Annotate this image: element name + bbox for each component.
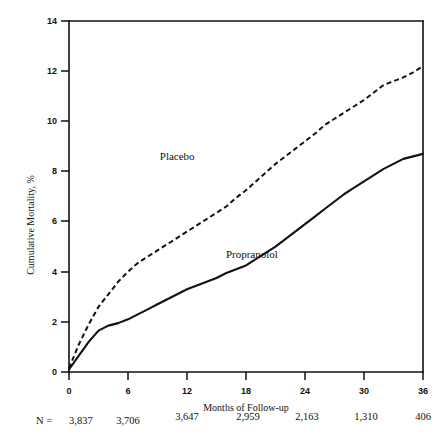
placebo-series-label: Placebo	[160, 150, 195, 162]
propranolol-series-label: Propranolol	[226, 248, 278, 260]
y-tick-label-10: 10	[47, 116, 57, 126]
n-value-36: 406	[415, 411, 431, 422]
n-value-6: 3,706	[116, 415, 140, 426]
n-value-12: 3,647	[175, 411, 199, 422]
figure-container: 14 12 10 8 6 4 2 0 0 6 12 18 24 30 36	[0, 0, 448, 443]
n-row-prefix: N =	[36, 415, 52, 426]
y-tick-label-0: 0	[52, 367, 57, 377]
data-curves	[69, 66, 423, 369]
y-tick-label-12: 12	[47, 66, 57, 76]
propranolol-curve	[69, 154, 423, 370]
x-axis-ticks: 0 6 12 18 24 30 36	[66, 372, 428, 396]
n-at-risk-row: N = 3,837 3,706 3,647 2,959 2,163 1,310 …	[36, 411, 431, 426]
x-tick-label-6: 6	[125, 386, 130, 396]
y-axis-title: Cumulative Mortality, %	[25, 175, 36, 275]
y-tick-label-8: 8	[52, 166, 57, 176]
n-value-24: 2,163	[295, 411, 319, 422]
x-tick-label-30: 30	[359, 386, 369, 396]
y-tick-label-6: 6	[52, 216, 57, 226]
x-tick-label-18: 18	[241, 386, 251, 396]
y-tick-label-4: 4	[52, 267, 57, 277]
x-tick-label-0: 0	[66, 386, 71, 396]
y-axis-ticks: 14 12 10 8 6 4 2 0	[47, 16, 69, 377]
n-value-0: 3,837	[69, 415, 93, 426]
x-tick-label-24: 24	[300, 386, 310, 396]
x-tick-label-36: 36	[418, 386, 428, 396]
plot-axes	[69, 21, 423, 372]
y-tick-label-14: 14	[47, 16, 57, 26]
n-value-30: 1,310	[354, 411, 378, 422]
placebo-curve	[69, 66, 423, 368]
n-value-18: 2,959	[236, 411, 260, 422]
y-tick-label-2: 2	[52, 317, 57, 327]
mortality-line-chart: 14 12 10 8 6 4 2 0 0 6 12 18 24 30 36	[0, 0, 448, 443]
x-tick-label-12: 12	[182, 386, 192, 396]
